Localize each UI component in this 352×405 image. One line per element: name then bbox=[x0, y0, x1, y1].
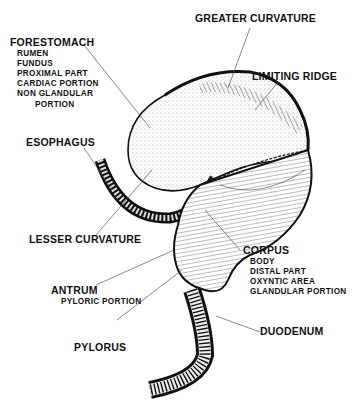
leader-duodenum bbox=[216, 316, 260, 332]
label-esophagus: ESOPHAGUS bbox=[26, 137, 95, 148]
label-lesser-curvature: LESSER CURVATURE bbox=[29, 234, 141, 245]
antrum-synonym: PYLORIC PORTION bbox=[51, 297, 141, 307]
corpus-title: CORPUS bbox=[243, 245, 347, 256]
corpus-synonym: DISTAL PART bbox=[250, 267, 347, 277]
corpus-synonym: BODY bbox=[250, 257, 347, 267]
leader-antrum bbox=[96, 250, 174, 285]
label-pylorus: PYLORUS bbox=[74, 342, 126, 353]
forestomach-synonym: PORTION bbox=[17, 100, 99, 110]
label-forestomach: FORESTOMACH RUMEN FUNDUS PROXIMAL PART C… bbox=[10, 37, 99, 110]
label-limiting-ridge: LIMITING RIDGE bbox=[252, 71, 337, 82]
forestomach-synonym: RUMEN bbox=[17, 49, 99, 59]
forestomach-synonym: PROXIMAL PART bbox=[17, 69, 99, 79]
antrum-title: ANTRUM bbox=[51, 285, 141, 296]
corpus-synonym: GLANDULAR PORTION bbox=[250, 287, 347, 297]
duodenum-shape bbox=[150, 290, 205, 390]
label-corpus: CORPUS BODY DISTAL PART OXYNTIC AREA GLA… bbox=[243, 245, 347, 297]
corpus-synonym: OXYNTIC AREA bbox=[250, 277, 347, 287]
forestomach-synonym: FUNDUS bbox=[17, 59, 99, 69]
label-greater-curvature: GREATER CURVATURE bbox=[195, 13, 316, 24]
forestomach-synonym: NON GLANDULAR bbox=[17, 89, 99, 99]
forestomach-title: FORESTOMACH bbox=[10, 37, 99, 48]
label-antrum: ANTRUM PYLORIC PORTION bbox=[51, 285, 141, 307]
label-duodenum: DUODENUM bbox=[260, 326, 323, 337]
forestomach-synonym: CARDIAC PORTION bbox=[17, 79, 99, 89]
